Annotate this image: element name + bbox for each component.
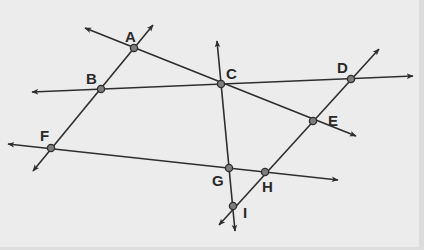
point-d: [347, 75, 354, 82]
point-g: [225, 164, 232, 171]
lines-layer: [8, 25, 413, 231]
point-f: [47, 144, 54, 151]
point-label-d: D: [337, 59, 348, 76]
point-label-a: A: [125, 28, 136, 45]
point-i: [229, 202, 236, 209]
point-label-h: H: [262, 178, 273, 195]
point-label-i: I: [243, 204, 247, 221]
point-c: [217, 80, 224, 87]
point-label-g: G: [212, 172, 224, 189]
point-label-b: B: [86, 70, 97, 87]
diagram-canvas: ABCDEFGHI: [0, 0, 424, 250]
point-label-e: E: [328, 112, 338, 129]
labels-layer: ABCDEFGHI: [40, 28, 348, 221]
point-h: [261, 168, 268, 175]
point-e: [309, 117, 316, 124]
line-IHED-arrow-line: [219, 49, 379, 225]
point-b: [97, 85, 104, 92]
right-edge-shadow: [419, 0, 424, 250]
point-label-c: C: [226, 65, 237, 82]
geometry-figure: ABCDEFGHI: [0, 0, 424, 250]
point-label-f: F: [40, 127, 49, 144]
point-a: [130, 44, 137, 51]
